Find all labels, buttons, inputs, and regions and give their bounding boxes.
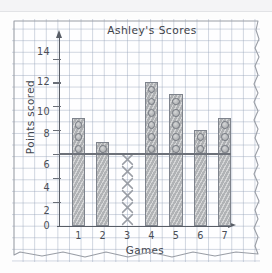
point-marker-circle: [75, 145, 83, 153]
point-marker-circle: [221, 121, 229, 129]
screenshot-root: Ashley's Scores 14 12 10 8 6 4 2 0 Point…: [0, 0, 272, 273]
zero-value-x-marker: [121, 153, 134, 166]
point-marker-circle: [172, 109, 180, 117]
point-marker-circle: [148, 109, 156, 117]
y-axis-arrow-icon: [56, 30, 62, 38]
point-marker-circle: [148, 133, 156, 141]
x-tick-label: 5: [167, 231, 185, 241]
bar-upper-segment: [194, 130, 207, 154]
point-marker-circle: [148, 145, 156, 153]
y-tick-label: 14: [26, 47, 50, 57]
x-axis-title: Games: [95, 244, 195, 256]
chart-plot-area: Ashley's Scores 14 12 10 8 6 4 2 0 Point…: [12, 19, 260, 262]
y-tick-mark: [53, 106, 61, 107]
bar-upper-segment: [169, 94, 182, 154]
point-marker-circle: [75, 133, 83, 141]
y-tick-mark: [53, 154, 61, 155]
reference-line-6: [59, 153, 231, 154]
bar-lower-segment: [169, 154, 182, 226]
point-marker-circle: [148, 121, 156, 129]
point-marker-circle: [99, 145, 107, 153]
y-tick-mark: [53, 82, 61, 83]
x-tick-label: 6: [191, 231, 209, 241]
point-marker-circle: [75, 121, 83, 129]
graph-paper-sheet: Ashley's Scores 14 12 10 8 6 4 2 0 Point…: [12, 19, 260, 262]
y-tick-mark: [53, 59, 61, 60]
y-tick-label: 4: [26, 183, 50, 193]
zero-value-x-marker: [121, 177, 134, 190]
point-marker-circle: [221, 133, 229, 141]
bar-upper-segment: [96, 142, 109, 154]
bar-upper-segment: [218, 118, 231, 154]
x-tick-label: 4: [143, 231, 161, 241]
point-marker-circle: [197, 145, 205, 153]
point-marker-circle: [172, 133, 180, 141]
chart-title: Ashley's Scores: [72, 24, 232, 36]
point-marker-circle: [148, 86, 156, 94]
point-marker-circle: [221, 145, 229, 153]
zero-value-x-marker: [121, 189, 134, 202]
point-marker-circle: [172, 98, 180, 106]
page-top-divider: [0, 11, 272, 12]
y-tick-mark: [53, 130, 61, 131]
y-axis-title: Points scored: [24, 69, 36, 165]
bar-lower-segment: [194, 154, 207, 226]
point-marker-circle: [148, 98, 156, 106]
point-marker-circle: [172, 121, 180, 129]
y-tick-label: 0: [26, 221, 50, 231]
bar-lower-segment: [145, 154, 158, 226]
point-marker-circle: [172, 145, 180, 153]
bar-upper-segment: [145, 82, 158, 154]
x-tick-label: 3: [118, 231, 136, 241]
zero-value-x-marker: [121, 201, 134, 214]
zero-value-x-marker: [121, 213, 134, 226]
y-tick-mark: [53, 178, 61, 179]
y-axis-line: [59, 37, 60, 227]
x-tick-label: 2: [94, 231, 112, 241]
x-axis-line: [57, 226, 231, 227]
bar-lower-segment: [96, 154, 109, 226]
x-tick-label: 7: [216, 231, 234, 241]
zero-value-x-marker: [121, 165, 134, 178]
x-tick-label: 1: [69, 231, 87, 241]
y-tick-label: 2: [26, 206, 50, 216]
y-tick-mark: [53, 202, 61, 203]
bar-lower-segment: [72, 154, 85, 226]
bar-upper-segment: [72, 118, 85, 154]
point-marker-circle: [197, 133, 205, 141]
bar-lower-segment: [218, 154, 231, 226]
